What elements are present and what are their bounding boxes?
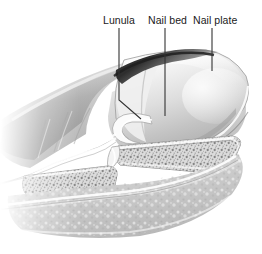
label-nail-bed: Nail bed [148, 14, 187, 26]
label-lunula: Lunula [103, 14, 135, 26]
fingertip-illustration [0, 0, 262, 254]
nail-anatomy-figure: Lunula Nail bed Nail plate [0, 0, 262, 254]
label-nail-plate: Nail plate [193, 14, 237, 26]
interphalangeal-joint [108, 146, 120, 168]
